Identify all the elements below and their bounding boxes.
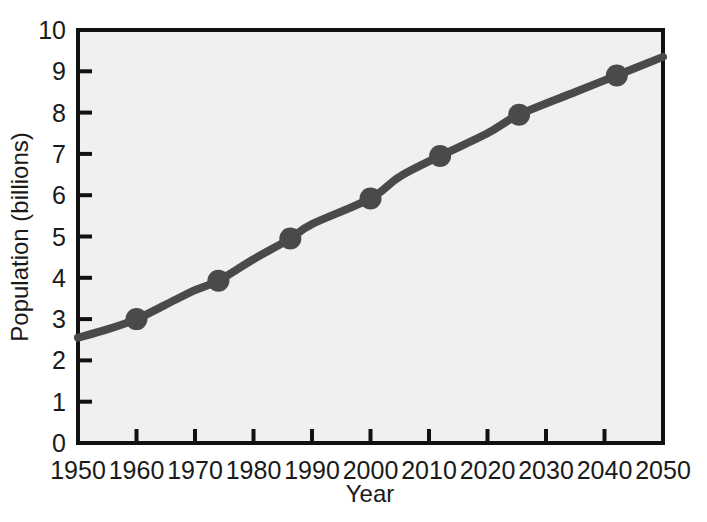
data-point-marker (429, 145, 451, 167)
y-tick-label: 7 (52, 140, 66, 168)
data-point-marker (360, 188, 382, 210)
data-point-marker (508, 104, 530, 126)
y-tick-label: 2 (52, 346, 66, 374)
y-tick-label: 8 (52, 99, 66, 127)
y-axis-title: Population (billions) (6, 132, 33, 341)
y-tick-label: 9 (52, 57, 66, 85)
data-point-marker (126, 308, 148, 330)
y-tick-label: 0 (52, 429, 66, 457)
x-tick-label: 2050 (635, 456, 691, 484)
chart-canvas: 012345678910 195019601970198019902000201… (0, 0, 707, 522)
population-line-chart: 012345678910 195019601970198019902000201… (0, 0, 707, 522)
x-axis-title: Year (346, 480, 395, 507)
y-tick-label: 5 (52, 223, 66, 251)
x-tick-label: 2030 (518, 456, 574, 484)
y-tick-label: 10 (38, 16, 66, 44)
data-point-marker (279, 228, 301, 250)
x-tick-label: 1980 (226, 456, 282, 484)
y-tick-label: 1 (52, 388, 66, 416)
x-tick-label: 1960 (109, 456, 165, 484)
y-tick-label: 4 (52, 264, 66, 292)
data-point-marker (207, 270, 229, 292)
y-tick-label: 6 (52, 181, 66, 209)
x-tick-label: 1970 (167, 456, 223, 484)
x-tick-label: 2020 (460, 456, 516, 484)
x-tick-label: 1990 (284, 456, 340, 484)
x-tick-label: 2040 (577, 456, 633, 484)
x-tick-label: 1950 (50, 456, 106, 484)
y-tick-label: 3 (52, 305, 66, 333)
data-point-marker (606, 64, 628, 86)
x-tick-label: 2010 (401, 456, 457, 484)
